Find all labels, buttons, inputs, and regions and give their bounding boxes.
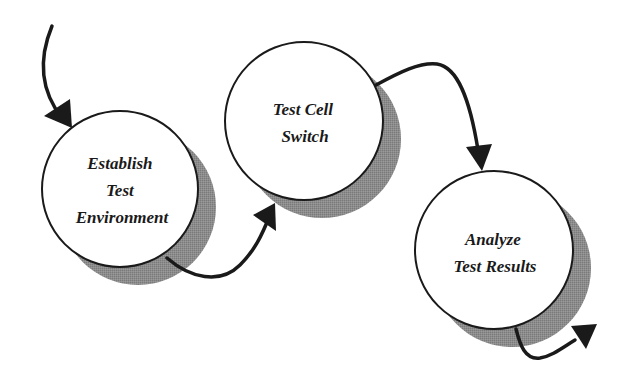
- label-line: Establish: [86, 154, 152, 173]
- node-test-cell-switch: Test Cell Switch: [225, 42, 401, 218]
- process-flow-diagram: Establish Test Environment Test Cell Swi…: [0, 0, 629, 377]
- label-line: Switch: [281, 127, 328, 146]
- entry-arrow: [43, 26, 72, 128]
- label-line: Test Results: [454, 257, 537, 276]
- node-analyze-test-results: Analyze Test Results: [415, 171, 591, 347]
- node-establish-test-environment: Establish Test Environment: [42, 111, 216, 285]
- label-line: Analyze: [464, 230, 521, 249]
- label-line: Test: [106, 181, 135, 200]
- node-circle: [225, 42, 383, 200]
- label-line: Test Cell: [273, 100, 334, 119]
- label-line: Environment: [75, 208, 170, 227]
- node-circle: [415, 171, 573, 329]
